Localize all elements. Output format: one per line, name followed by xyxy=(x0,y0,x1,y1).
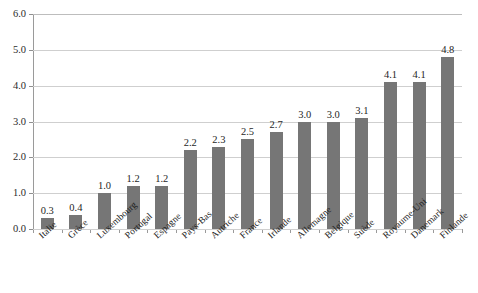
bar xyxy=(384,82,397,229)
x-tick xyxy=(90,230,91,233)
bar xyxy=(441,57,454,229)
y-tick-5.0 xyxy=(29,50,33,51)
x-tick xyxy=(262,230,263,233)
bar xyxy=(212,147,225,229)
y-tick-3.0 xyxy=(29,122,33,123)
bar xyxy=(355,118,368,229)
x-tick xyxy=(33,230,34,233)
bar-chart-figure: ItalieGrèceLuxembourgPortugalEspagnePays… xyxy=(0,0,478,293)
gridline-6.0 xyxy=(33,14,462,15)
y-axis-tick-label: 2.0 xyxy=(0,152,26,163)
bar-value-label: 1.2 xyxy=(145,173,179,184)
bar-value-label: 4.1 xyxy=(402,69,436,80)
bar-value-label: 3.1 xyxy=(345,105,379,116)
x-axis-category-labels: ItalieGrèceLuxembourgPortugalEspagnePays… xyxy=(33,233,478,293)
x-tick xyxy=(433,230,434,233)
x-tick xyxy=(319,230,320,233)
bar xyxy=(270,132,283,229)
y-axis-tick-label: 4.0 xyxy=(0,81,26,92)
x-tick xyxy=(405,230,406,233)
clipped-caption-strip xyxy=(0,0,478,7)
plot-area xyxy=(33,14,462,229)
bar xyxy=(298,122,311,230)
x-tick xyxy=(62,230,63,233)
x-tick xyxy=(348,230,349,233)
x-tick xyxy=(176,230,177,233)
y-axis-tick-label: 6.0 xyxy=(0,9,26,20)
y-axis-tick-label: 3.0 xyxy=(0,117,26,128)
x-tick xyxy=(205,230,206,233)
bar-value-label: 0.4 xyxy=(59,202,93,213)
gridline-5.0 xyxy=(33,50,462,51)
y-tick-2.0 xyxy=(29,157,33,158)
y-axis-tick-label: 5.0 xyxy=(0,45,26,56)
y-tick-4.0 xyxy=(29,86,33,87)
x-tick xyxy=(147,230,148,233)
x-tick xyxy=(462,230,463,233)
y-axis-tick-label: 1.0 xyxy=(0,188,26,199)
bar-value-label: 2.7 xyxy=(259,119,293,130)
y-tick-6.0 xyxy=(29,14,33,15)
bar xyxy=(241,139,254,229)
bar-value-label: 4.8 xyxy=(431,44,465,55)
gridline-4.0 xyxy=(33,86,462,87)
x-tick xyxy=(233,230,234,233)
y-tick-1.0 xyxy=(29,193,33,194)
bar xyxy=(184,150,197,229)
gridline-3.0 xyxy=(33,122,462,123)
x-tick xyxy=(290,230,291,233)
x-tick xyxy=(376,230,377,233)
y-axis-tick-label: 0.0 xyxy=(0,224,26,235)
x-tick xyxy=(119,230,120,233)
